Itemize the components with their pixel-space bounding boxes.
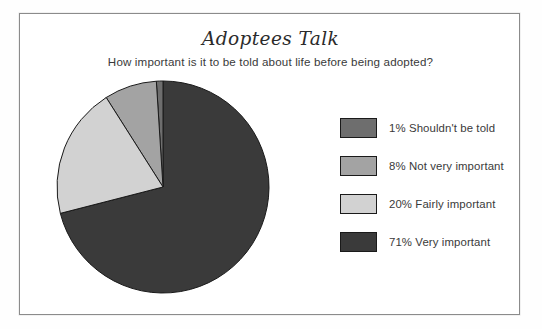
page-title: Adoptees Talk xyxy=(20,28,521,49)
legend-item-label: 1% Shouldn't be told xyxy=(389,122,495,134)
pie-slice-group xyxy=(57,81,269,293)
legend-item[interactable]: 20% Fairly important xyxy=(340,185,515,223)
legend-item[interactable]: 8% Not very important xyxy=(340,147,515,185)
page-root: Adoptees Talk How important is it to be … xyxy=(0,0,542,329)
legend-item-label: 8% Not very important xyxy=(389,160,504,172)
legend-item-label: 71% Very important xyxy=(389,236,490,248)
legend-item[interactable]: 1% Shouldn't be told xyxy=(340,109,515,147)
pie-chart-svg xyxy=(44,67,284,307)
chart-legend: 1% Shouldn't be told8% Not very importan… xyxy=(340,109,515,261)
legend-swatch-icon xyxy=(340,118,377,138)
legend-swatch-icon xyxy=(340,232,377,252)
pie-chart xyxy=(44,67,284,307)
legend-swatch-icon xyxy=(340,194,377,214)
chart-frame: Adoptees Talk How important is it to be … xyxy=(19,13,520,315)
legend-swatch-icon xyxy=(340,156,377,176)
legend-item[interactable]: 71% Very important xyxy=(340,223,515,261)
legend-item-label: 20% Fairly important xyxy=(389,198,495,210)
